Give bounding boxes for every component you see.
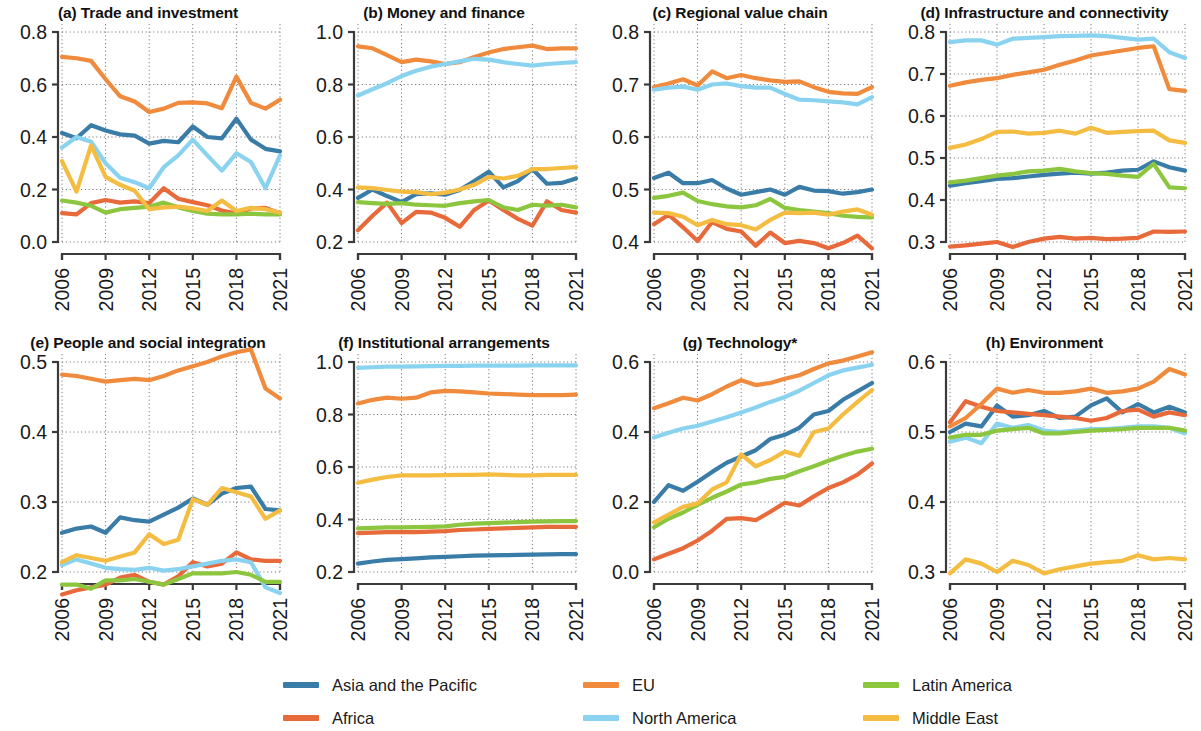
x-tick-label: 2012 [138, 598, 160, 641]
y-tick-label: 0.4 [20, 126, 47, 148]
y-tick-label: 0.6 [908, 105, 935, 127]
x-axis-spine [950, 584, 1185, 590]
x-tick-label: 2012 [730, 268, 752, 311]
x-tick-label: 2021 [1174, 268, 1196, 311]
y-tick-label: 0.4 [316, 509, 343, 531]
x-tick-label: 2015 [478, 268, 500, 312]
plot-area-b: 0.20.40.60.81.0200620092012201520182021 [296, 0, 592, 330]
x-tick-label: 2006 [939, 268, 961, 311]
plot-area-f: 0.20.40.60.81.0200620092012201520182021 [296, 330, 592, 660]
series-line-north-america [358, 365, 576, 367]
y-tick-label: 0.8 [908, 21, 935, 43]
legend-item-eu[interactable]: EU [583, 672, 655, 698]
y-tick-label: 0.8 [316, 404, 343, 426]
x-axis-spine [654, 254, 872, 260]
legend-item-africa[interactable]: Africa [283, 705, 374, 731]
chart-legend: Asia and the PacificAfricaEUNorth Americ… [283, 672, 1083, 731]
x-tick-label: 2006 [51, 598, 73, 641]
x-tick-label: 2015 [1080, 268, 1102, 312]
series-line-eu [62, 57, 280, 112]
multi-panel-line-chart-figure: (a) Trade and investment0.00.20.40.60.82… [0, 0, 1201, 731]
plot-area-d: 0.30.40.50.60.70.82006200920122015201820… [888, 0, 1201, 330]
x-tick-label: 2021 [269, 598, 291, 641]
series-line-middle-east [950, 128, 1185, 148]
legend-swatch-africa [283, 715, 319, 721]
y-tick-label: 0.8 [20, 21, 47, 43]
legend-item-north-america[interactable]: North America [583, 705, 737, 731]
y-tick-label: 0.2 [20, 179, 47, 201]
y-tick-label: 0.7 [612, 74, 639, 96]
series-line-middle-east [62, 488, 280, 562]
legend-label-latin-america: Latin America [912, 676, 1012, 695]
x-tick-label: 2015 [182, 598, 204, 642]
legend-label-north-america: North America [632, 709, 737, 728]
x-tick-label: 2009 [95, 598, 117, 641]
x-tick-label: 2012 [434, 598, 456, 641]
series-line-north-america [62, 137, 280, 188]
y-tick-label: 0.2 [20, 561, 47, 583]
y-tick-label: 0.5 [908, 421, 935, 443]
x-tick-label: 2012 [434, 268, 456, 311]
panel-g: (g) Technology*0.00.20.40.62006200920122… [592, 330, 888, 660]
x-tick-label: 2021 [565, 268, 587, 311]
series-line-middle-east [654, 209, 872, 229]
x-tick-label: 2009 [95, 268, 117, 311]
y-tick-label: 0.3 [908, 561, 935, 583]
legend-label-middle-east: Middle East [912, 709, 998, 728]
series-line-eu [62, 349, 280, 398]
y-tick-label: 0.4 [316, 179, 343, 201]
y-tick-label: 0.6 [20, 74, 47, 96]
plot-area-e: 0.20.30.40.5200620092012201520182021 [0, 330, 296, 660]
y-tick-label: 0.2 [612, 491, 639, 513]
x-tick-label: 2015 [1080, 598, 1102, 642]
x-tick-label: 2009 [986, 268, 1008, 311]
plot-area-c: 0.40.50.60.70.8200620092012201520182021 [592, 0, 888, 330]
y-tick-label: 0.4 [908, 189, 935, 211]
y-tick-label: 0.6 [316, 456, 343, 478]
legend-label-eu: EU [632, 676, 655, 695]
y-tick-label: 0.0 [612, 561, 639, 583]
x-tick-label: 2009 [391, 268, 413, 311]
y-tick-label: 0.5 [612, 179, 639, 201]
x-tick-label: 2006 [643, 268, 665, 311]
y-tick-label: 1.0 [316, 351, 343, 373]
x-tick-label: 2009 [391, 598, 413, 641]
legend-label-africa: Africa [332, 709, 374, 728]
y-tick-label: 0.3 [908, 231, 935, 253]
x-tick-label: 2018 [817, 268, 839, 311]
x-tick-label: 2012 [138, 268, 160, 311]
legend-item-middle-east[interactable]: Middle East [863, 705, 998, 731]
plot-area-g: 0.00.20.40.6200620092012201520182021 [592, 330, 888, 660]
x-tick-label: 2015 [774, 268, 796, 312]
panel-a: (a) Trade and investment0.00.20.40.60.82… [0, 0, 296, 330]
legend-swatch-latin-america [863, 682, 899, 688]
x-tick-label: 2018 [225, 598, 247, 641]
y-tick-label: 0.0 [20, 231, 47, 253]
panel-d: (d) Infrastructure and connectivity0.30.… [888, 0, 1201, 330]
series-line-north-america [358, 59, 576, 96]
y-axis-spine [940, 32, 946, 242]
x-tick-label: 2006 [51, 268, 73, 311]
x-axis-spine [950, 254, 1185, 260]
x-axis-spine [62, 254, 280, 260]
plot-area-a: 0.00.20.40.60.8200620092012201520182021 [0, 0, 296, 330]
panel-h: (h) Environment0.30.40.50.62006200920122… [888, 330, 1201, 660]
panel-c: (c) Regional value chain0.40.50.60.70.82… [592, 0, 888, 330]
legend-item-latin-america[interactable]: Latin America [863, 672, 1012, 698]
y-tick-label: 1.0 [316, 21, 343, 43]
y-tick-label: 0.4 [612, 421, 639, 443]
x-tick-label: 2006 [643, 598, 665, 641]
series-line-eu [654, 71, 872, 94]
x-axis-spine [358, 254, 576, 260]
y-tick-label: 0.6 [612, 351, 639, 373]
y-axis-spine [940, 362, 946, 572]
y-tick-label: 0.2 [316, 231, 343, 253]
x-tick-label: 2012 [730, 598, 752, 641]
legend-item-asia-pacific[interactable]: Asia and the Pacific [283, 672, 477, 698]
series-line-asia-and-the-pacific [358, 554, 576, 563]
series-line-latin-america [62, 572, 280, 589]
series-line-middle-east [358, 474, 576, 482]
x-tick-label: 2009 [687, 268, 709, 311]
y-tick-label: 0.4 [908, 491, 935, 513]
x-tick-label: 2021 [269, 268, 291, 311]
